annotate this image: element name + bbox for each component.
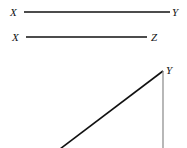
geometry-diagram: X Y X Z Y — [0, 0, 187, 148]
label-x-2: X — [11, 31, 20, 43]
segment-xy: X Y — [9, 6, 180, 18]
hypotenuse-line — [60, 71, 163, 148]
label-y-apex: Y — [166, 64, 174, 76]
label-x-1: X — [9, 6, 18, 18]
triangle: Y — [60, 64, 174, 148]
label-z: Z — [151, 31, 158, 43]
label-y-1: Y — [172, 6, 180, 18]
segment-xz: X Z — [11, 31, 158, 43]
